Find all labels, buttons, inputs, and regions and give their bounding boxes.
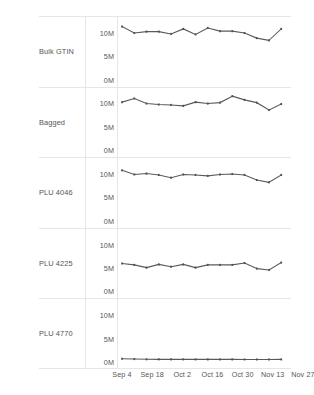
data-point-marker xyxy=(146,31,148,33)
data-point-marker xyxy=(133,264,135,266)
data-point-marker xyxy=(182,174,184,176)
data-point-marker xyxy=(207,264,209,266)
data-point-marker xyxy=(268,109,270,111)
facet-row-label-1: Bulk GTIN xyxy=(39,17,86,87)
facet-row: PLU 40460M5M10M xyxy=(39,157,291,228)
data-point-marker xyxy=(256,37,258,39)
data-point-marker xyxy=(207,175,209,177)
plot-panel-5 xyxy=(117,299,291,368)
data-point-marker xyxy=(219,101,221,103)
data-point-marker xyxy=(219,174,221,176)
x-tick-label: Sep 18 xyxy=(140,371,163,378)
data-point-marker xyxy=(256,101,258,103)
series-plot xyxy=(118,158,291,228)
data-point-marker xyxy=(280,103,282,105)
facet-grid: Bulk GTIN0M5M10MBagged0M5M10MPLU 40460M5… xyxy=(0,0,314,395)
data-point-marker xyxy=(268,269,270,271)
data-point-marker xyxy=(182,28,184,30)
x-tick-label: Oct 16 xyxy=(202,371,224,378)
facet-label-text: Bagged xyxy=(39,119,65,126)
data-point-marker xyxy=(133,32,135,34)
data-point-marker xyxy=(121,169,123,171)
y-tick-label: 0M xyxy=(104,148,114,155)
data-point-marker xyxy=(170,265,172,267)
plot-panel-3 xyxy=(117,158,291,228)
data-point-marker xyxy=(195,266,197,268)
data-point-marker xyxy=(219,359,221,361)
data-point-marker xyxy=(268,359,270,361)
facet-row-label-4: PLU 4225 xyxy=(39,229,86,299)
data-point-marker xyxy=(170,177,172,179)
data-point-marker xyxy=(195,359,197,361)
y-tick-label: 0M xyxy=(104,359,114,366)
data-point-marker xyxy=(231,359,233,361)
data-point-marker xyxy=(158,31,160,33)
data-point-marker xyxy=(121,101,123,103)
data-point-marker xyxy=(121,262,123,264)
data-point-marker xyxy=(146,359,148,361)
data-point-marker xyxy=(207,27,209,29)
data-point-marker xyxy=(244,174,246,176)
x-axis: Sep 4Sep 18Oct 2Oct 16Oct 30Nov 13Nov 27 xyxy=(117,371,291,385)
series-plot xyxy=(118,17,291,87)
y-tick-label: 5M xyxy=(104,54,114,61)
data-point-marker xyxy=(231,173,233,175)
series-plot xyxy=(118,88,291,158)
y-tick-label: 10M xyxy=(100,171,114,178)
data-point-marker xyxy=(121,358,123,360)
data-point-marker xyxy=(280,174,282,176)
data-point-marker xyxy=(182,359,184,361)
y-tick-label: 10M xyxy=(100,313,114,320)
data-point-marker xyxy=(256,359,258,361)
data-point-marker xyxy=(268,39,270,41)
data-point-marker xyxy=(158,263,160,265)
y-tick-label: 0M xyxy=(104,289,114,296)
facet-row: Bagged0M5M10M xyxy=(39,87,291,158)
facet-label-text: PLU 4225 xyxy=(39,260,73,267)
data-point-marker xyxy=(170,33,172,35)
data-point-marker xyxy=(256,267,258,269)
y-axis-ticks-row-5: 0M5M10M xyxy=(86,299,117,368)
y-tick-label: 0M xyxy=(104,218,114,225)
y-tick-label: 5M xyxy=(104,124,114,131)
data-point-marker xyxy=(207,359,209,361)
data-point-marker xyxy=(231,30,233,32)
x-tick-label: Oct 30 xyxy=(232,371,254,378)
data-point-marker xyxy=(231,264,233,266)
x-tick-label: Sep 4 xyxy=(112,371,131,378)
y-tick-label: 10M xyxy=(100,242,114,249)
y-axis-ticks-row-2: 0M5M10M xyxy=(86,88,117,158)
y-axis-ticks-row-3: 0M5M10M xyxy=(86,158,117,228)
data-point-marker xyxy=(219,30,221,32)
data-point-marker xyxy=(146,266,148,268)
data-point-marker xyxy=(195,101,197,103)
x-tick-label: Nov 13 xyxy=(261,371,284,378)
data-point-marker xyxy=(280,359,282,361)
data-point-marker xyxy=(182,104,184,106)
data-point-marker xyxy=(268,181,270,183)
series-plot xyxy=(118,229,291,299)
small-multiples-chart: Bulk GTIN0M5M10MBagged0M5M10MPLU 40460M5… xyxy=(0,0,314,395)
data-point-marker xyxy=(133,97,135,99)
facet-row: Bulk GTIN0M5M10M xyxy=(39,16,291,87)
y-tick-label: 5M xyxy=(104,195,114,202)
data-point-marker xyxy=(195,33,197,35)
y-tick-label: 5M xyxy=(104,336,114,343)
data-point-marker xyxy=(280,28,282,30)
data-point-marker xyxy=(280,261,282,263)
facet-row-label-5: PLU 4770 xyxy=(39,299,86,368)
data-point-marker xyxy=(158,174,160,176)
data-point-marker xyxy=(231,95,233,97)
plot-panel-4 xyxy=(117,229,291,299)
y-tick-label: 10M xyxy=(100,101,114,108)
facet-row-label-3: PLU 4046 xyxy=(39,158,86,228)
data-point-marker xyxy=(244,262,246,264)
x-tick-label: Nov 27 xyxy=(291,371,314,378)
facet-row: PLU 42250M5M10M xyxy=(39,228,291,299)
data-point-marker xyxy=(244,98,246,100)
data-point-marker xyxy=(256,179,258,181)
facet-label-text: PLU 4770 xyxy=(39,330,73,337)
y-axis-ticks-row-1: 0M5M10M xyxy=(86,17,117,87)
y-axis-ticks-row-4: 0M5M10M xyxy=(86,229,117,299)
facet-row: PLU 47700M5M10M xyxy=(39,298,291,369)
